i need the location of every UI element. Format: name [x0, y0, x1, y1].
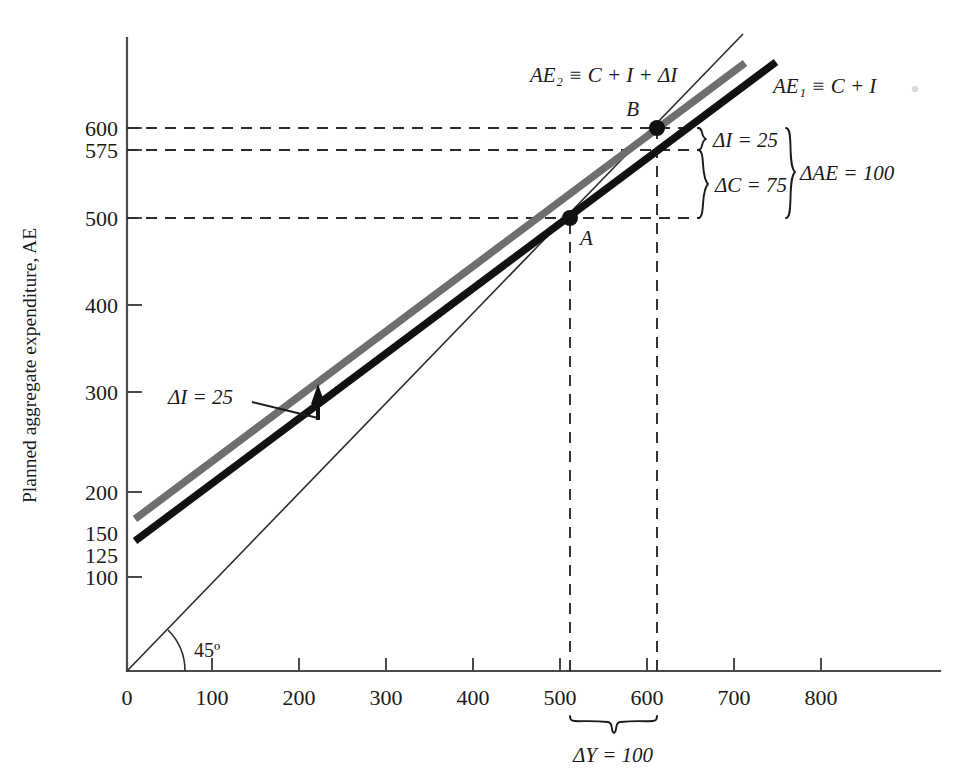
delta-i-bracket-label: ΔI = 25: [712, 128, 778, 152]
figure-container: 0 100 200 300 400 500 600 700 800 100 12…: [0, 0, 957, 773]
x-tick-marks: [212, 658, 821, 671]
y-tick-label-200: 200: [85, 480, 118, 505]
delta-ae-brace: [786, 128, 795, 218]
y-tick-labels: 100 125 150 200 300 400 500 575 600: [85, 116, 118, 590]
y-tick-label-300: 300: [85, 380, 118, 405]
x-tick-label-100: 100: [196, 685, 229, 710]
delta-c-brace: [698, 150, 708, 218]
x-tick-label-800: 800: [805, 685, 838, 710]
x-tick-label-600: 600: [631, 685, 664, 710]
delta-ae-bracket-label: ΔAE = 100: [799, 161, 895, 185]
x-tick-label-500: 500: [544, 685, 577, 710]
delta-i-shift-annotation: ΔI = 25: [167, 384, 325, 420]
axes-group: [127, 38, 940, 671]
y-tick-label-100: 100: [85, 565, 118, 590]
point-b-marker: [649, 120, 665, 136]
keynesian-cross-chart: 0 100 200 300 400 500 600 700 800 100 12…: [0, 0, 957, 773]
delta-y-brace: [570, 716, 657, 733]
delta-y-bracket-label: ΔY = 100: [572, 743, 654, 767]
y-tick-label-400: 400: [85, 293, 118, 318]
angle-label: 45º: [194, 639, 220, 661]
x-tick-label-700: 700: [718, 685, 751, 710]
angle-arc: [168, 630, 185, 671]
point-b-label: B: [626, 97, 639, 121]
ae2-line-label: AE₂ ≡ C + I + ΔI: [528, 63, 678, 87]
y-tick-label-500: 500: [85, 206, 118, 231]
y-tick-label-600: 600: [85, 116, 118, 141]
delta-ae-brace-group: ΔAE = 100: [786, 128, 895, 218]
y-tick-label-575: 575: [85, 138, 118, 163]
y-tick-label-150: 150: [85, 521, 118, 546]
y-axis-title: Planned aggregate expenditure, AE: [19, 228, 40, 503]
y-tick-marks: [127, 128, 142, 577]
delta-i-brace-group: ΔI = 25: [698, 128, 778, 152]
delta-i-shift-label: ΔI = 25: [167, 385, 233, 409]
scan-artifact-speck: [912, 86, 918, 92]
x-tick-label-0: 0: [122, 685, 133, 710]
x-tick-label-200: 200: [283, 685, 316, 710]
ae1-line: [135, 62, 776, 541]
delta-y-brace-group: ΔY = 100: [570, 716, 657, 767]
x-tick-label-300: 300: [370, 685, 403, 710]
x-tick-label-400: 400: [457, 685, 490, 710]
delta-c-bracket-label: ΔC = 75: [714, 173, 787, 197]
point-a-marker: [562, 210, 578, 226]
ae1-line-label: AE₁ ≡ C + I: [771, 74, 877, 98]
x-tick-labels: 0 100 200 300 400 500 600 700 800: [122, 685, 838, 710]
y-tick-label-125: 125: [85, 543, 118, 568]
point-a-label: A: [578, 226, 593, 250]
delta-i-brace: [698, 128, 706, 150]
delta-c-brace-group: ΔC = 75: [698, 150, 787, 218]
